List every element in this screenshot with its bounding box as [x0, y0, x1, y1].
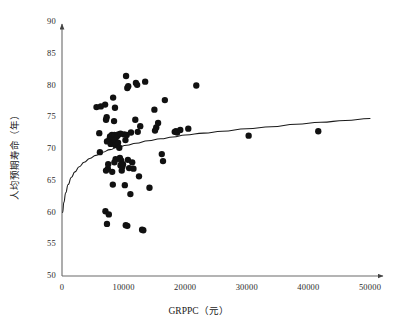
y-tick-label: 50: [34, 270, 56, 280]
data-point: [177, 127, 183, 133]
y-tick-label: 70: [34, 143, 56, 153]
x-tick-label: 50000: [346, 282, 394, 292]
y-axis-title: 人均预期寿命（年）: [7, 95, 21, 215]
plot-canvas: [0, 0, 397, 329]
x-tick-label: 20000: [161, 282, 209, 292]
data-point: [106, 211, 112, 217]
data-point: [159, 151, 165, 157]
data-point: [127, 191, 133, 197]
data-point: [193, 82, 199, 88]
data-point: [142, 79, 148, 85]
data-point: [104, 221, 110, 227]
data-points: [93, 73, 321, 234]
data-point: [136, 173, 142, 179]
data-point: [140, 227, 146, 233]
data-point: [125, 83, 131, 89]
x-tick-label: 30000: [223, 282, 271, 292]
scatter-chart: 505560657075808590 010000200003000040000…: [0, 0, 397, 329]
y-tick-label: 55: [34, 238, 56, 248]
data-point: [155, 120, 161, 126]
data-point: [111, 118, 117, 124]
data-point: [146, 185, 152, 191]
data-point: [135, 129, 141, 135]
data-point: [122, 182, 128, 188]
y-tick-label: 85: [34, 48, 56, 58]
y-tick-label: 75: [34, 111, 56, 121]
data-point: [151, 106, 157, 112]
x-tick-label: 0: [38, 282, 86, 292]
x-tick-label: 10000: [100, 282, 148, 292]
data-point: [160, 158, 166, 164]
data-point: [134, 82, 140, 88]
data-point: [123, 73, 129, 79]
y-tick-label: 65: [34, 175, 56, 185]
data-point: [129, 159, 135, 165]
data-point: [120, 161, 126, 167]
data-point: [116, 145, 122, 151]
data-point: [96, 130, 102, 136]
data-point: [109, 169, 115, 175]
data-point: [112, 105, 118, 111]
x-tick-label: 40000: [284, 282, 332, 292]
y-tick-label: 60: [34, 207, 56, 217]
data-point: [162, 97, 168, 103]
data-point: [315, 128, 321, 134]
data-point: [102, 101, 108, 107]
data-point: [105, 161, 111, 167]
data-point: [110, 181, 116, 187]
data-point: [124, 223, 130, 229]
data-point: [103, 167, 109, 173]
data-point: [110, 94, 116, 100]
y-tick-label: 90: [34, 16, 56, 26]
data-point: [97, 149, 103, 155]
data-point: [132, 117, 138, 123]
data-point: [128, 129, 134, 135]
data-point: [103, 114, 109, 120]
data-point: [152, 127, 158, 133]
y-tick-label: 80: [34, 80, 56, 90]
data-point: [245, 132, 251, 138]
data-point: [137, 123, 143, 129]
data-point: [130, 166, 136, 172]
data-point: [185, 126, 191, 132]
x-axis-title: GRPPC（元）: [0, 303, 397, 317]
